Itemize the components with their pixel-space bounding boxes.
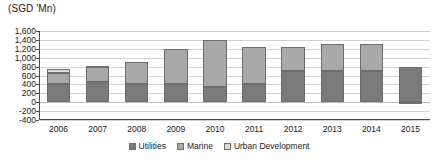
- y-axis-units-label: (SGD 'Mn): [8, 3, 56, 14]
- bar-group: [360, 31, 383, 120]
- x-axis-tick-label: 2009: [156, 124, 195, 134]
- bar-segment-marine: [203, 40, 226, 87]
- x-axis-tick-label: 2014: [352, 124, 391, 134]
- bar-segment-marine: [47, 73, 70, 84]
- legend-swatch-urban: [224, 143, 231, 150]
- bar-segment-urban: [399, 102, 422, 104]
- bar-segment-utilities: [281, 71, 304, 102]
- bar-segment-utilities: [242, 84, 265, 102]
- bar-segment-utilities: [125, 84, 148, 102]
- bar-segment-urban: [86, 66, 109, 68]
- x-axis-tick-label: 2013: [313, 124, 352, 134]
- gridline--400: [40, 120, 430, 121]
- bar-group: [399, 31, 422, 120]
- legend-item[interactable]: Urban Development: [224, 142, 310, 151]
- bar-group: [281, 31, 304, 120]
- bar-segment-utilities: [47, 84, 70, 102]
- bar-group: [164, 31, 187, 120]
- bar-segment-marine: [86, 67, 109, 82]
- legend-swatch-utilities: [129, 143, 136, 150]
- x-axis-tick-label: 2012: [274, 124, 313, 134]
- bar-segment-utilities: [321, 71, 344, 102]
- legend-item[interactable]: Utilities: [129, 142, 166, 151]
- x-axis-tick-label: 2008: [117, 124, 156, 134]
- legend-label: Urban Development: [234, 142, 310, 151]
- x-axis-tick-label: 2006: [39, 124, 78, 134]
- bar-segment-utilities: [360, 71, 383, 102]
- bar-segment-marine: [281, 47, 304, 71]
- legend-swatch-marine: [177, 143, 184, 150]
- legend-item[interactable]: Marine: [177, 142, 213, 151]
- bar-group: [86, 31, 109, 120]
- bar-segment-marine: [125, 62, 148, 84]
- bar-group: [203, 31, 226, 120]
- x-axis-tick-label: 2007: [78, 124, 117, 134]
- bar-group: [125, 31, 148, 120]
- x-axis-tick-label: 2011: [235, 124, 274, 134]
- bar-group: [47, 31, 70, 120]
- bar-segment-urban: [47, 69, 70, 73]
- legend-label: Utilities: [139, 142, 166, 151]
- bar-segment-utilities: [399, 67, 422, 103]
- bar-segment-marine: [164, 49, 187, 85]
- chart-legend: UtilitiesMarineUrban Development: [0, 142, 438, 151]
- bar-segment-utilities: [203, 87, 226, 103]
- bar-segment-marine: [360, 44, 383, 71]
- bar-segment-marine: [321, 44, 344, 71]
- legend-label: Marine: [187, 142, 213, 151]
- y-axis-tick-mark: [36, 120, 39, 121]
- bar-segment-utilities: [164, 84, 187, 102]
- bar-group: [242, 31, 265, 120]
- bar-segment-utilities: [86, 82, 109, 102]
- stacked-bar-chart: (SGD 'Mn) 1,6001,4001,2001,0008006004002…: [0, 0, 438, 162]
- x-axis-tick-label: 2015: [391, 124, 430, 134]
- bar-group: [321, 31, 344, 120]
- bars-layer: [39, 31, 430, 120]
- x-axis-tick-label: 2010: [195, 124, 234, 134]
- bar-segment-marine: [242, 47, 265, 85]
- y-axis-tick-label: -400: [19, 116, 36, 125]
